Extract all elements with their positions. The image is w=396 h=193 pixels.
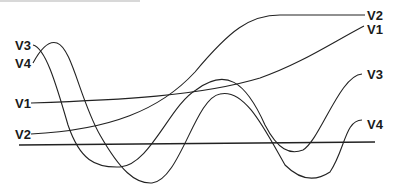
waveform-diagram: V3 V4 V1 V2 V2 V1 V3 V4 [0, 0, 396, 193]
curve-v4 [33, 42, 362, 183]
curve-v3 [33, 45, 362, 167]
baseline [19, 142, 375, 145]
label-right-v4: V4 [367, 117, 384, 132]
label-right-v2: V2 [367, 8, 383, 23]
label-left-v4: V4 [15, 56, 32, 71]
label-left-v2: V2 [15, 127, 31, 142]
label-right-v1: V1 [367, 22, 383, 37]
label-left-v1: V1 [15, 96, 31, 111]
curve-v2 [31, 15, 365, 134]
label-left-v3: V3 [15, 38, 31, 53]
label-right-v3: V3 [367, 67, 383, 82]
